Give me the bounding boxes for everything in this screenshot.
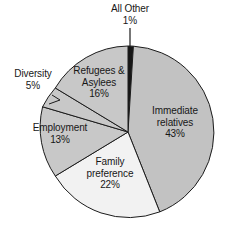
slice-label-refugees-asylees: Refugees & Asylees 16%	[62, 65, 136, 100]
slice-label-immediate-relatives: Immediate relatives 43%	[140, 105, 210, 140]
slice-label-diversity: Diversity 5%	[2, 68, 64, 91]
slice-label-all-other: All Other 1%	[92, 3, 168, 26]
slice-label-employment: Employment 13%	[23, 122, 97, 145]
slice-label-family-preference: Family preference 22%	[75, 156, 145, 191]
pie-chart-figure: All Other 1% Diversity 5% Refugees & Asy…	[0, 0, 225, 235]
